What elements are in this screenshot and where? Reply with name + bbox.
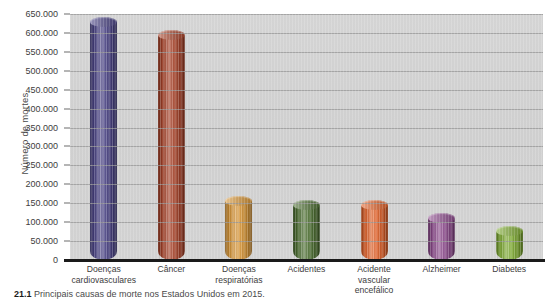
y-tick-label: 500.000 (0, 66, 58, 76)
y-tick-label: 650.000 (0, 9, 58, 19)
gridline (70, 165, 543, 166)
gridline (70, 14, 543, 15)
gridline (70, 128, 543, 129)
bar (158, 30, 185, 260)
bar-texture (361, 205, 388, 260)
y-tick-label: 400.000 (0, 104, 58, 114)
bar-top-ellipse (158, 30, 185, 40)
gridline (70, 222, 543, 223)
gridline (70, 33, 543, 34)
bar-top-ellipse (293, 200, 320, 210)
y-tick-label: 150.000 (0, 198, 58, 208)
y-axis-ticks: 050.000100.000150.000200.000250.000300.0… (0, 0, 66, 266)
x-category-label: Câncer (138, 264, 206, 275)
gridline (70, 52, 543, 53)
bar-body (361, 205, 388, 260)
y-tick-label: 450.000 (0, 85, 58, 95)
bar-top-ellipse (361, 200, 388, 210)
bar (225, 196, 252, 260)
bar-texture (293, 205, 320, 260)
bar-texture (90, 22, 117, 260)
y-tick-label: 250.000 (0, 160, 58, 170)
gridline (70, 241, 543, 242)
bar-texture (225, 201, 252, 260)
x-category-label: Doençascardiovasculares (70, 264, 138, 285)
y-tick-label: 550.000 (0, 47, 58, 57)
bar-top-ellipse (90, 17, 117, 27)
x-category-label: Doençasrespiratórias (205, 264, 273, 285)
y-tick-label: 0 (0, 255, 58, 265)
x-category-label: Alzheimer (408, 264, 476, 275)
gridline (70, 90, 543, 91)
gridline (70, 146, 543, 147)
y-tick-label: 350.000 (0, 123, 58, 133)
gridline (70, 203, 543, 204)
figure-caption: 21.1 Principais causas de morte nos Esta… (14, 289, 549, 299)
x-category-label: Acidentes (273, 264, 341, 275)
bar (293, 200, 320, 260)
bar-body (90, 22, 117, 260)
y-tick-label: 200.000 (0, 179, 58, 189)
gridline (70, 71, 543, 72)
x-category-label: Diabetes (475, 264, 543, 275)
gridline (70, 109, 543, 110)
x-axis-line (64, 259, 545, 262)
gridline (70, 184, 543, 185)
bar (90, 17, 117, 260)
bar (428, 213, 455, 260)
figure-number: 21.1 (14, 289, 32, 299)
bar-body (428, 218, 455, 260)
y-tick-label: 50.000 (0, 236, 58, 246)
figure-caption-text: Principais causas de morte nos Estados U… (34, 289, 265, 299)
plot-area (70, 14, 543, 260)
bar-texture (428, 218, 455, 260)
y-tick-label: 100.000 (0, 217, 58, 227)
bar (361, 200, 388, 260)
bar-body (225, 201, 252, 260)
y-tick-label: 300.000 (0, 141, 58, 151)
bar (496, 226, 523, 260)
bar-body (293, 205, 320, 260)
y-tick-label: 600.000 (0, 28, 58, 38)
